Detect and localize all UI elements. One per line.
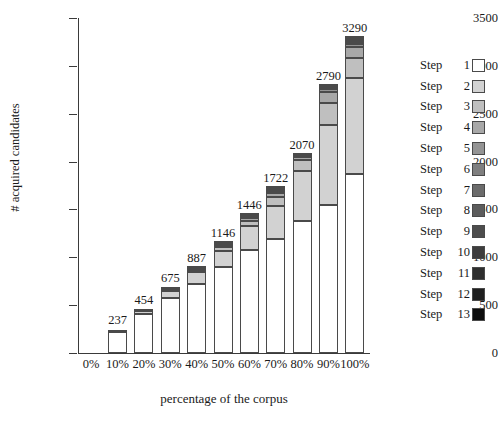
legend-item-number: 10 [450,245,470,260]
legend-item-number: 2 [450,79,470,94]
legend-item-number: 3 [450,99,470,114]
bar-segment[interactable] [266,239,285,353]
bar-stack[interactable] [108,330,127,353]
bar-segment[interactable] [161,298,180,353]
bar-segment[interactable] [345,174,364,353]
legend-swatch [472,225,485,238]
legend-item[interactable]: Step12 [420,284,496,305]
y-tick-mark [69,305,77,306]
legend-item-number: 13 [450,307,470,322]
bar-segment[interactable] [240,218,259,220]
legend-swatch [472,121,485,134]
legend: Step1Step2Step3Step4Step5Step6Step7Step8… [420,55,496,325]
bar-segment[interactable] [240,250,259,353]
bar-stack[interactable] [266,188,285,353]
legend-item-number: 7 [450,183,470,198]
legend-item-word: Step [420,203,450,218]
bar-segment[interactable] [345,44,364,48]
y-tick-mark [69,257,77,258]
legend-item-label: Step2 [420,79,472,94]
legend-item-label: Step6 [420,162,472,177]
legend-item-number: 5 [450,141,470,156]
bar-segment[interactable] [319,92,338,103]
bar-segment[interactable] [266,186,285,188]
legend-item-number: 9 [450,224,470,239]
legend-item[interactable]: Step9 [420,221,496,242]
bar-segment[interactable] [266,193,285,196]
legend-swatch [472,100,485,113]
bar-segment[interactable] [214,247,233,250]
legend-item-word: Step [420,307,450,322]
bar-segment[interactable] [134,309,153,311]
bar-segment[interactable] [108,330,127,332]
bar-segment[interactable] [187,284,206,353]
legend-item-word: Step [420,245,450,260]
legend-item[interactable]: Step2 [420,76,496,97]
bar-total-label: 454 [122,294,166,307]
bar-segment[interactable] [293,157,312,160]
legend-item[interactable]: Step7 [420,180,496,201]
legend-item[interactable]: Step4 [420,117,496,138]
legend-item-label: Step1 [420,58,472,73]
bar-segment[interactable] [319,89,338,92]
bar-stack[interactable] [319,86,338,353]
legend-item[interactable]: Step3 [420,97,496,118]
bar-segment[interactable] [187,266,206,268]
bar-segment[interactable] [266,191,285,193]
bar-total-label: 2070 [280,139,324,152]
legend-item-label: Step5 [420,141,472,156]
bar-segment[interactable] [345,78,364,174]
bar-segment[interactable] [345,42,364,44]
bar-total-label: 237 [96,314,140,327]
legend-swatch [472,184,485,197]
legend-item-word: Step [420,120,450,135]
legend-item-number: 11 [450,266,470,281]
legend-item-label: Step8 [420,203,472,218]
y-tick-mark [69,66,77,67]
bar-segment[interactable] [240,221,259,226]
legend-swatch [472,80,485,93]
bar-stack[interactable] [345,38,364,353]
legend-swatch [472,59,485,72]
legend-item[interactable]: Step6 [420,159,496,180]
legend-item[interactable]: Step8 [420,201,496,222]
bar-total-label: 1722 [254,172,298,185]
legend-item-label: Step4 [420,120,472,135]
bar-segment[interactable] [293,153,312,155]
bar-segment[interactable] [240,213,259,215]
bar-segment[interactable] [108,332,127,353]
bar-segment[interactable] [345,47,364,58]
bar-segment[interactable] [293,221,312,353]
legend-swatch [472,308,485,321]
bar-total-label: 1446 [227,199,271,212]
y-tick-label: 3500 [436,12,498,24]
legend-item-label: Step3 [420,99,472,114]
legend-item-word: Step [420,99,450,114]
bar-segment[interactable] [319,205,338,353]
bar-segment[interactable] [161,287,180,289]
legend-item-word: Step [420,224,450,239]
bar-segment[interactable] [214,267,233,353]
x-tick-label: 100% [335,357,375,371]
legend-item-number: 12 [450,287,470,302]
legend-swatch [472,246,485,259]
y-tick-mark [69,162,77,163]
bar-segment[interactable] [293,160,312,171]
legend-item[interactable]: Step1 [420,55,496,76]
legend-item-label: Step12 [420,287,472,302]
legend-item[interactable]: Step5 [420,138,496,159]
y-tick-mark [69,114,77,115]
legend-item[interactable]: Step10 [420,242,496,263]
x-axis-title: percentage of the corpus [78,391,370,407]
bar-total-label: 887 [175,252,219,265]
legend-item[interactable]: Step13 [420,305,496,326]
bar-segment[interactable] [319,125,338,204]
legend-swatch [472,142,485,155]
y-tick-mark [69,353,77,354]
bar-segment[interactable] [214,241,233,243]
bar-segment[interactable] [319,84,338,86]
chart-figure: 0500100015002000250030003500 0%10%20%30%… [0,0,498,430]
legend-item[interactable]: Step11 [420,263,496,284]
bar-segment[interactable] [319,103,338,125]
bar-segment[interactable] [345,36,364,38]
